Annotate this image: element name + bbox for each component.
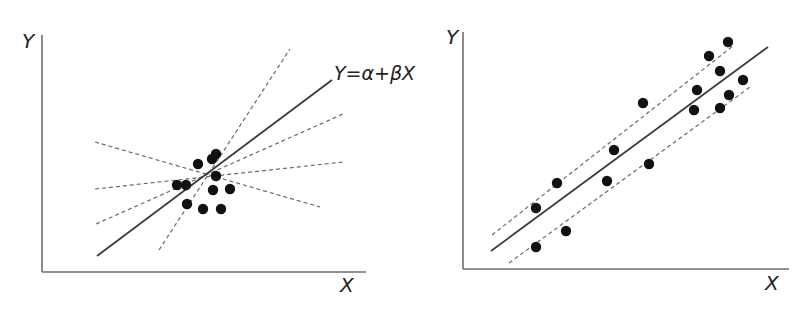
right-data-point [689,105,699,115]
left-data-point [193,159,203,169]
right-data-point [715,66,725,76]
left-y-axis-label: Y [22,29,36,53]
left-data-point [208,185,218,195]
left-data-point [198,204,208,214]
right-scatter-plot [463,32,789,269]
right-data-point [609,145,619,155]
right-data-point [692,85,702,95]
left-data-point [211,149,221,159]
left-data-point [211,171,221,181]
right-data-point [638,98,648,108]
right-dashed-line [509,87,750,263]
regression-figure: Y X Y=α+βX Y X [0,0,811,317]
right-data-point [738,75,748,85]
left-data-point [225,184,235,194]
right-data-point [723,37,733,47]
right-data-point [561,226,571,236]
right-data-point [602,176,612,186]
right-data-point [644,159,654,169]
left-data-point [182,199,192,209]
right-x-axis-label: X [764,271,780,295]
right-data-point [704,51,714,61]
right-dashed-line [492,46,733,235]
right-regression-line [491,47,768,251]
right-data-point [552,178,562,188]
right-y-axis-label: Y [446,25,460,49]
left-data-point [216,204,226,214]
regression-equation: Y=α+βX [334,62,416,84]
right-data-point [724,90,734,100]
left-scatter-plot [42,35,366,272]
right-data-point [531,203,541,213]
right-data-point [715,103,725,113]
left-dashed-line [159,49,290,250]
left-x-axis-label: X [339,273,355,297]
right-data-point [531,242,541,252]
left-data-point [181,180,191,190]
left-regression-line [97,80,332,256]
left-data-point [172,180,182,190]
